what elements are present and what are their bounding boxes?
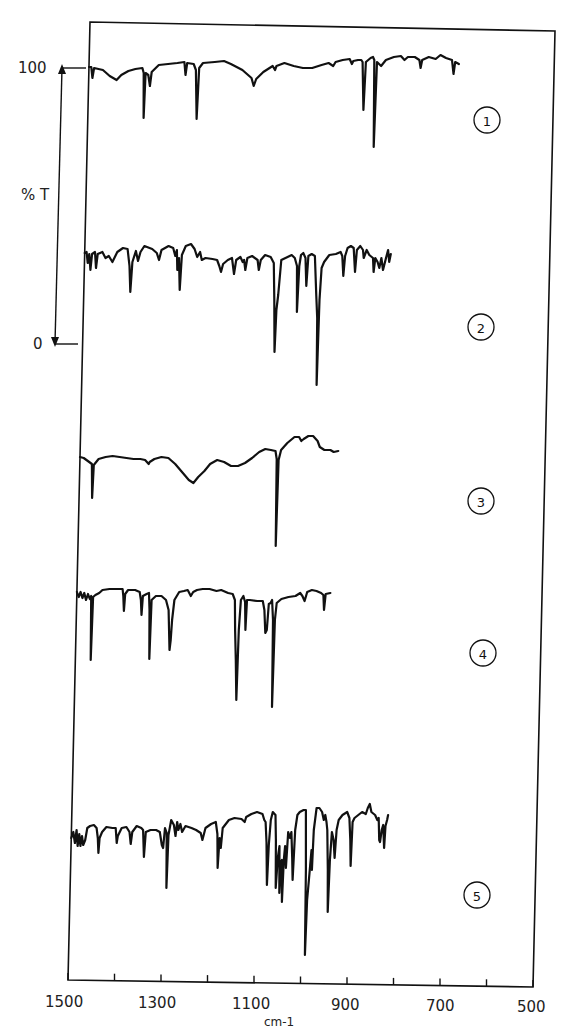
- y-axis-label: % T: [21, 186, 50, 204]
- x-label-1100: 1100: [232, 995, 270, 1013]
- ir-spectra-chart: 12345 100 0 % T 1500 1300 1100 900 700 5…: [0, 0, 577, 1035]
- arrow-up-icon: [58, 64, 66, 74]
- spectrum-trace-1: [89, 55, 459, 147]
- x-label-900: 900: [331, 996, 360, 1014]
- spectrum-trace-5: [71, 804, 388, 955]
- x-label-500: 500: [517, 998, 546, 1016]
- scale-arrow-line: [55, 68, 62, 343]
- trace-labels: 12345: [464, 107, 500, 908]
- x-label-700: 700: [426, 997, 455, 1015]
- spectrum-trace-2: [85, 244, 391, 385]
- x-label-1300: 1300: [138, 994, 176, 1012]
- spectrum-trace-4: [77, 589, 331, 707]
- y-bottom-label: 0: [33, 335, 43, 353]
- transmittance-scale: 100 0 % T: [18, 59, 86, 353]
- trace-label-3: 3: [477, 495, 485, 510]
- trace-label-2: 2: [477, 321, 485, 336]
- arrow-down-icon: [51, 337, 59, 347]
- y-top-label: 100: [18, 59, 47, 77]
- x-label-1500: 1500: [45, 993, 83, 1011]
- trace-label-5: 5: [473, 889, 481, 904]
- spectra-traces: [71, 55, 459, 955]
- trace-label-1: 1: [483, 114, 491, 129]
- x-axis-unit: cm-1: [264, 1015, 294, 1029]
- x-axis-ticks: [68, 973, 533, 987]
- spectrum-trace-3: [80, 436, 338, 546]
- trace-label-4: 4: [479, 647, 487, 662]
- x-axis-labels: 1500 1300 1100 900 700 500 cm-1: [45, 993, 546, 1029]
